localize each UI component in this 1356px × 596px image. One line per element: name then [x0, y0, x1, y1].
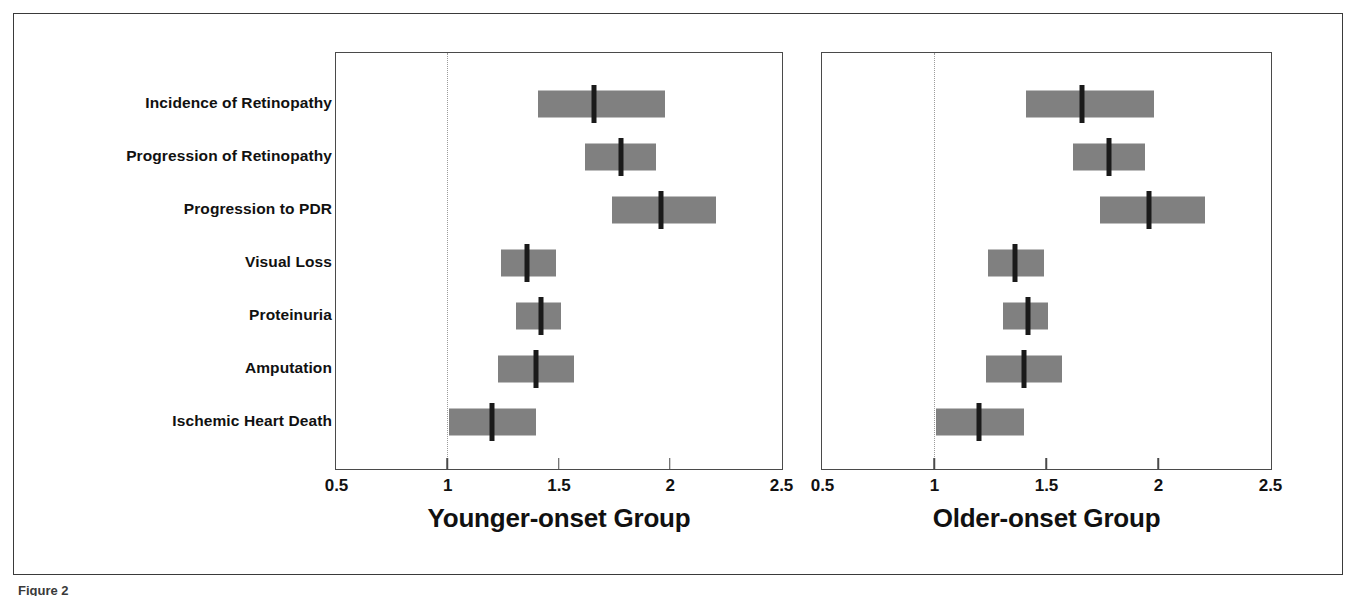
axis-tick-label: 2.5 — [1259, 476, 1283, 496]
axis-tick-label: 2 — [1154, 476, 1163, 496]
panel-title-younger-onset: Younger-onset Group — [428, 503, 691, 534]
confidence-interval-bar — [1100, 197, 1205, 224]
category-label: Ischemic Heart Death — [40, 412, 332, 430]
panel-title-older-onset: Older-onset Group — [933, 503, 1161, 534]
point-estimate-marker — [489, 403, 494, 441]
axis-tick-mark — [447, 458, 449, 469]
point-estimate-marker — [976, 403, 981, 441]
point-estimate-marker — [658, 191, 663, 229]
plot-area-younger — [336, 53, 782, 469]
axis-tick-label: 1.5 — [1035, 476, 1059, 496]
point-estimate-marker — [1026, 297, 1031, 335]
panel-older-onset — [821, 52, 1272, 470]
category-label: Proteinuria — [40, 306, 332, 324]
point-estimate-marker — [1147, 191, 1152, 229]
caption-fragment: Figure 2 — [18, 583, 69, 596]
panel-younger-onset — [335, 52, 783, 470]
category-label: Incidence of Retinopathy — [40, 94, 332, 112]
reference-line — [934, 53, 935, 469]
category-label: Visual Loss — [40, 253, 332, 271]
axis-tick-mark — [1157, 458, 1159, 469]
category-label-column: Incidence of RetinopathyProgression of R… — [40, 56, 332, 456]
plot-area-older — [822, 53, 1271, 469]
axis-tick-mark — [669, 458, 671, 469]
axis-tick-label: 0.5 — [811, 476, 835, 496]
point-estimate-marker — [1012, 244, 1017, 282]
axis-tick-mark — [558, 458, 560, 469]
axis-tick-label: 1 — [930, 476, 939, 496]
axis-tick-label: 1 — [443, 476, 452, 496]
point-estimate-marker — [538, 297, 543, 335]
point-estimate-marker — [1021, 350, 1026, 388]
point-estimate-marker — [618, 138, 623, 176]
reference-line — [447, 53, 448, 469]
category-label: Progression to PDR — [40, 200, 332, 218]
confidence-interval-bar — [538, 91, 665, 118]
point-estimate-marker — [592, 85, 597, 123]
point-estimate-marker — [1079, 85, 1084, 123]
confidence-interval-bar — [1026, 91, 1154, 118]
point-estimate-marker — [1106, 138, 1111, 176]
category-label: Progression of Retinopathy — [40, 147, 332, 165]
category-label: Amputation — [40, 359, 332, 377]
axis-tick-label: 2 — [666, 476, 675, 496]
confidence-interval-bar — [612, 197, 717, 224]
point-estimate-marker — [534, 350, 539, 388]
forest-plot-figure: Incidence of RetinopathyProgression of R… — [0, 0, 1356, 596]
axis-tick-mark — [933, 458, 935, 469]
axis-tick-label: 1.5 — [547, 476, 571, 496]
axis-tick-label: 2.5 — [770, 476, 794, 496]
axis-tick-mark — [1045, 458, 1047, 469]
point-estimate-marker — [525, 244, 530, 282]
axis-tick-label: 0.5 — [325, 476, 349, 496]
